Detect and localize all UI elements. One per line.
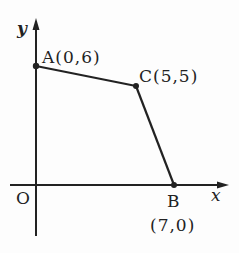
point-b-label: B bbox=[167, 191, 180, 211]
coordinate-diagram: y x O A(0,6) C(5,5) B (7,0) bbox=[0, 0, 239, 253]
point-b-coords: (7,0) bbox=[150, 215, 195, 235]
point-b bbox=[171, 182, 177, 188]
diagram-svg: y x O A(0,6) C(5,5) B (7,0) bbox=[0, 0, 239, 253]
point-a-label: A(0,6) bbox=[41, 47, 101, 67]
x-axis-label: x bbox=[211, 185, 221, 205]
point-c-label: C(5,5) bbox=[139, 66, 198, 86]
origin-label: O bbox=[16, 188, 30, 208]
segment-cb bbox=[136, 86, 174, 185]
y-axis-label: y bbox=[16, 18, 28, 38]
point-a bbox=[33, 63, 39, 69]
segment-ac bbox=[36, 66, 136, 86]
y-axis-arrow-icon bbox=[33, 18, 40, 30]
